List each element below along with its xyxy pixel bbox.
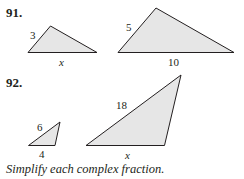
triangle-91-large <box>118 8 234 53</box>
triangle-92-large <box>86 75 181 146</box>
similar-triangles-figure: 3 x 5 10 6 4 18 x <box>0 0 244 179</box>
side-label-x: x <box>124 149 130 161</box>
side-label-6: 6 <box>37 121 43 133</box>
problem-92-figure: 6 4 18 x <box>29 75 182 161</box>
side-label-10: 10 <box>168 56 180 68</box>
side-label-x: x <box>58 56 64 68</box>
side-label-18: 18 <box>116 99 128 111</box>
triangle-91-small <box>28 26 97 53</box>
side-label-5: 5 <box>126 21 132 33</box>
triangle-92-small <box>29 122 61 146</box>
side-label-4: 4 <box>39 148 45 160</box>
instruction-text: Simplify each complex fraction. <box>6 162 164 176</box>
side-label-3: 3 <box>30 29 36 41</box>
problem-91-figure: 3 x 5 10 <box>28 8 234 68</box>
